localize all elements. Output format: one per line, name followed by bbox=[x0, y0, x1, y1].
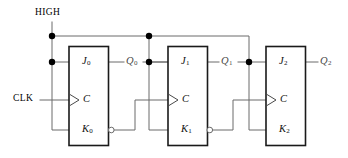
junction-dot-high-stage1 bbox=[146, 33, 152, 39]
flip-flop-0-k-label: K0 bbox=[82, 124, 93, 135]
flip-flop-0-j-label: J0 bbox=[82, 56, 90, 67]
flip-flop-0-k-letter: K bbox=[82, 123, 89, 134]
junction-dot-stage2-j bbox=[246, 59, 252, 65]
junction-dot-stage1-j bbox=[146, 59, 152, 65]
flip-flop-1-qbar-bubble-icon bbox=[207, 127, 213, 133]
flip-flop-1-j-letter: J bbox=[181, 55, 186, 66]
flip-flop-1-j-subscript: 1 bbox=[186, 59, 190, 67]
flip-flop-2-q-output-label: Q2 bbox=[320, 56, 331, 67]
wire-stage1-jk-bus bbox=[149, 36, 168, 130]
flip-flop-1-k-letter: K bbox=[181, 123, 188, 134]
flip-flop-2-clock-label: C bbox=[280, 94, 287, 105]
wire-ff0-qbar-to-ff1-clock bbox=[114, 100, 168, 130]
flip-flop-2-k-label: K2 bbox=[279, 124, 290, 135]
flip-flop-0-j-letter: J bbox=[82, 55, 87, 66]
clk-input-label: CLK bbox=[13, 94, 33, 104]
high-supply-label: HIGH bbox=[35, 8, 60, 18]
flip-flop-0-q-output-label: Q0 bbox=[126, 56, 137, 67]
flip-flop-0-clock-label: C bbox=[83, 94, 90, 105]
flip-flop-1-q-letter: Q bbox=[221, 55, 229, 66]
flip-flop-1-j-label: J1 bbox=[181, 56, 189, 67]
flip-flop-1-q-subscript: 1 bbox=[229, 59, 233, 67]
junction-dot-stage0-j bbox=[49, 59, 55, 65]
flip-flop-2-q-letter: Q bbox=[320, 55, 328, 66]
flip-flop-2-k-subscript: 2 bbox=[286, 127, 290, 135]
flip-flop-2-j-letter: J bbox=[279, 55, 284, 66]
flip-flop-1-k-subscript: 1 bbox=[188, 127, 192, 135]
flip-flop-2-q-subscript: 2 bbox=[328, 59, 332, 67]
wire-stage0-jk-bus bbox=[52, 36, 69, 130]
flip-flop-0-j-subscript: 0 bbox=[87, 59, 91, 67]
circuit-schematic-canvas bbox=[0, 0, 348, 158]
flip-flop-2-j-subscript: 2 bbox=[284, 59, 288, 67]
circuit-diagram: HIGH CLK J0 C K0 Q0 J1 C K1 Q1 J2 C K2 Q… bbox=[0, 0, 348, 158]
flip-flop-0-k-subscript: 0 bbox=[89, 127, 93, 135]
flip-flop-1-q-output-label: Q1 bbox=[221, 56, 232, 67]
flip-flop-0-qbar-bubble-icon bbox=[109, 127, 115, 133]
flip-flop-1-clock-label: C bbox=[182, 94, 189, 105]
flip-flop-0-q-letter: Q bbox=[126, 55, 134, 66]
junction-dot-high-stage0 bbox=[49, 33, 55, 39]
wire-ff1-qbar-to-ff2-clock bbox=[212, 100, 266, 130]
flip-flop-1-k-label: K1 bbox=[181, 124, 192, 135]
flip-flop-2-k-letter: K bbox=[279, 123, 286, 134]
flip-flop-2-j-label: J2 bbox=[279, 56, 287, 67]
flip-flop-0-q-subscript: 0 bbox=[134, 59, 138, 67]
wire-stage2-jk-bus bbox=[249, 62, 266, 130]
